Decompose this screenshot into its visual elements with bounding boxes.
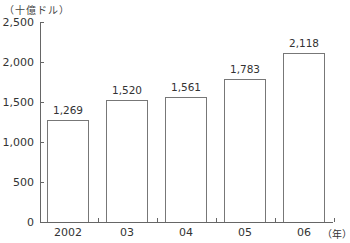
bar-03 <box>106 100 148 222</box>
x-tick-label: 04 <box>179 226 193 239</box>
x-tick-mark <box>216 218 217 222</box>
x-tick-label: 03 <box>120 226 134 239</box>
y-tick-mark <box>40 102 44 103</box>
bar-value-label: 1,561 <box>156 81 216 93</box>
bar-04 <box>165 97 207 222</box>
y-axis-line <box>40 22 41 223</box>
x-tick-label: 06 <box>297 226 311 239</box>
y-tick-label: 500 <box>13 176 34 189</box>
x-tick-mark <box>157 218 158 222</box>
x-axis-unit-label: （年） <box>322 226 350 241</box>
y-tick-mark <box>40 142 44 143</box>
y-tick-mark <box>40 22 44 23</box>
y-tick-label: 1,500 <box>3 96 35 109</box>
x-tick-label: 2002 <box>54 226 82 239</box>
x-tick-mark <box>334 218 335 222</box>
y-tick-mark <box>40 62 44 63</box>
y-tick-label: 2,500 <box>3 16 35 29</box>
bar-05 <box>224 79 266 222</box>
x-tick-label: 05 <box>238 226 252 239</box>
bar-value-label: 1,269 <box>38 104 98 116</box>
x-tick-mark <box>275 218 276 222</box>
y-tick-label: 0 <box>27 216 34 229</box>
y-tick-label: 2,000 <box>3 56 35 69</box>
bar-value-label: 1,783 <box>215 63 275 75</box>
bar-value-label: 2,118 <box>274 37 334 49</box>
y-tick-mark <box>40 222 44 223</box>
x-axis-line <box>40 222 333 223</box>
y-tick-mark <box>40 182 44 183</box>
x-tick-mark <box>98 218 99 222</box>
y-tick-label: 1,000 <box>3 136 35 149</box>
bar-2002 <box>47 120 89 222</box>
bar-06 <box>283 53 325 222</box>
bar-value-label: 1,520 <box>97 84 157 96</box>
